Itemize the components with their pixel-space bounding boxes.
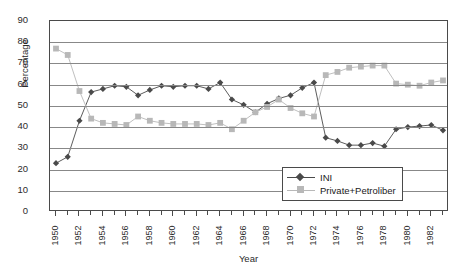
data-point	[346, 142, 352, 148]
x-tick-label-1954: 1954	[97, 216, 106, 256]
x-tick-1961	[184, 211, 185, 215]
data-point	[334, 138, 340, 144]
legend-label: Private+Petroliber	[320, 185, 396, 196]
x-tick-label-1952: 1952	[74, 216, 83, 256]
gridline-40	[50, 127, 447, 128]
series-private-petroliber	[53, 46, 446, 132]
data-point	[358, 64, 364, 70]
data-point	[76, 118, 82, 124]
data-point	[323, 72, 329, 78]
legend-label: INI	[320, 172, 332, 183]
y-tick-label-60: 60	[0, 79, 28, 88]
y-tick-label-90: 90	[0, 15, 28, 24]
data-point	[53, 46, 59, 52]
y-tick-label-0: 0	[0, 206, 28, 215]
x-tick-label-1968: 1968	[262, 216, 271, 256]
data-point	[416, 123, 422, 129]
data-point	[252, 109, 258, 115]
x-tick-1971	[301, 211, 302, 215]
data-point	[370, 140, 376, 146]
x-tick-label-1960: 1960	[168, 216, 177, 256]
data-point	[182, 83, 188, 89]
data-point	[77, 88, 83, 94]
data-point	[194, 83, 200, 89]
y-tick-label-30: 30	[0, 142, 28, 151]
chart-container: Percentage 0102030405060708090 195019521…	[0, 0, 458, 273]
data-point	[53, 160, 59, 166]
x-tick-1953	[90, 211, 91, 215]
data-point	[65, 52, 71, 58]
data-point	[135, 114, 141, 120]
data-point	[217, 120, 223, 126]
x-tick-1955	[114, 211, 115, 215]
data-point	[88, 89, 94, 95]
data-point	[241, 118, 247, 124]
x-tick-label-1958: 1958	[144, 216, 153, 256]
data-point	[147, 87, 153, 93]
x-axis-tick-labels: 1950195219541956195819601962196419661968…	[49, 217, 448, 249]
gridline-80	[50, 42, 447, 43]
data-point	[100, 120, 106, 126]
x-tick-1959	[161, 211, 162, 215]
data-point	[229, 96, 235, 102]
gridline-60	[50, 85, 447, 86]
data-point	[358, 142, 364, 148]
series-line	[56, 49, 443, 130]
x-tick-label-1966: 1966	[238, 216, 247, 256]
data-point	[287, 92, 293, 98]
y-tick-label-20: 20	[0, 164, 28, 173]
x-tick-1977	[372, 211, 373, 215]
data-point	[276, 97, 282, 103]
x-tick-label-1970: 1970	[285, 216, 294, 256]
data-point	[194, 121, 200, 127]
x-tick-label-1982: 1982	[426, 216, 435, 256]
data-point	[205, 86, 211, 92]
y-tick-label-10: 10	[0, 185, 28, 194]
data-point	[440, 127, 446, 133]
x-tick-label-1974: 1974	[332, 216, 341, 256]
x-tick-label-1956: 1956	[121, 216, 130, 256]
y-tick-label-50: 50	[0, 100, 28, 109]
y-tick-label-40: 40	[0, 121, 28, 130]
data-point	[88, 116, 94, 122]
x-tick-1983	[442, 211, 443, 215]
data-point	[100, 86, 106, 92]
data-point	[65, 154, 71, 160]
x-tick-1969	[278, 211, 279, 215]
x-tick-1963	[207, 211, 208, 215]
data-point	[335, 69, 341, 75]
gridline-50	[50, 106, 447, 107]
x-tick-label-1964: 1964	[215, 216, 224, 256]
gridline-30	[50, 148, 447, 149]
data-point	[299, 85, 305, 91]
x-tick-label-1950: 1950	[51, 216, 60, 256]
legend-diamond-icon	[287, 172, 315, 183]
x-tick-1951	[67, 211, 68, 215]
x-axis-title: Year	[49, 253, 448, 264]
x-tick-label-1972: 1972	[309, 216, 318, 256]
data-point	[112, 83, 118, 89]
legend-square-icon	[287, 185, 315, 196]
legend-item-ini: INI	[287, 171, 396, 184]
x-tick-label-1980: 1980	[402, 216, 411, 256]
x-tick-1967	[254, 211, 255, 215]
data-point	[323, 135, 329, 141]
x-tick-1973	[325, 211, 326, 215]
y-tick-label-70: 70	[0, 57, 28, 66]
chart-legend: INIPrivate+Petroliber	[282, 167, 403, 201]
data-point	[311, 114, 317, 120]
x-tick-1965	[231, 211, 232, 215]
x-tick-1979	[395, 211, 396, 215]
data-point	[147, 118, 153, 124]
x-tick-1957	[137, 211, 138, 215]
data-point	[346, 65, 352, 71]
data-point	[112, 121, 118, 127]
data-point	[170, 121, 176, 127]
data-point	[182, 121, 188, 127]
data-point	[299, 110, 305, 116]
x-tick-label-1978: 1978	[379, 216, 388, 256]
x-tick-label-1962: 1962	[191, 216, 200, 256]
x-tick-label-1976: 1976	[355, 216, 364, 256]
y-axis-tick-labels: 0102030405060708090	[0, 0, 28, 273]
data-point	[241, 102, 247, 108]
